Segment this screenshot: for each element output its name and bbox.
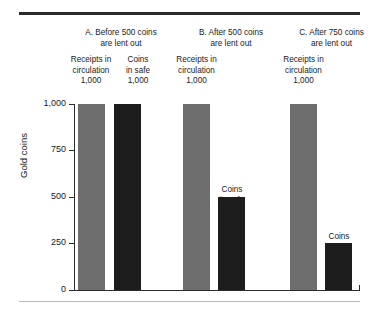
- y-tick-250: [69, 243, 74, 244]
- y-tick-label-1000-text: 1,000: [43, 98, 66, 108]
- y-tick-label-750-text: 750: [51, 144, 66, 154]
- y-tick-0: [69, 290, 74, 291]
- y-tick-500: [69, 197, 74, 198]
- y-axis-label: Gold coins: [18, 111, 29, 201]
- bar-a-coins: [114, 104, 141, 290]
- x-axis-right-end-tick: [359, 285, 360, 291]
- bar-b-coins: [218, 197, 245, 290]
- gold-coins-bar-chart-figure: A. Before 500 coins are lent out B. Afte…: [0, 0, 379, 313]
- bar-b-receipts: [183, 104, 210, 290]
- y-axis-line: [74, 104, 75, 291]
- y-tick-750: [69, 150, 74, 151]
- bar-a-receipts: [78, 104, 105, 290]
- x-axis-line: [74, 290, 360, 291]
- y-tick-label-500-text: 500: [51, 191, 66, 201]
- y-tick-label-250-text: 250: [51, 237, 66, 247]
- y-tick-label-0-text: 0: [61, 284, 66, 294]
- plot-area: 1,000 750 500 250 0 Gold coins: [0, 0, 379, 313]
- y-tick-1000: [69, 104, 74, 105]
- bar-c-coins: [325, 243, 352, 290]
- bar-c-receipts: [290, 104, 317, 290]
